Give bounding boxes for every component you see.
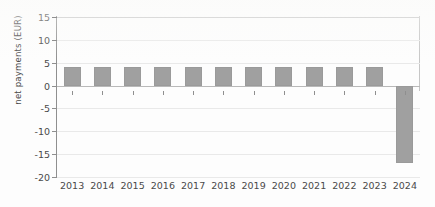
x-tick-label: 2024 [393, 180, 417, 191]
bar [94, 67, 111, 85]
bar-chart: net payments (EUR) 151050-5-10-15-20 201… [0, 0, 435, 207]
x-axis-tick-labels: 2013201420152016201720182019202020212022… [0, 180, 435, 196]
x-tick-mark [254, 91, 255, 95]
x-tick-mark [344, 91, 345, 95]
y-tick-label: -5 [4, 103, 50, 114]
x-tick-label: 2021 [302, 180, 326, 191]
x-tick-mark [223, 91, 224, 95]
y-tick-mark [52, 63, 57, 64]
y-tick-label: 10 [4, 34, 50, 45]
bar [275, 67, 292, 85]
gridline-15 [57, 17, 420, 18]
y-tick-mark [52, 177, 57, 178]
gridline--10 [57, 131, 420, 132]
gridline--5 [57, 108, 420, 109]
y-tick-mark [52, 154, 57, 155]
y-tick-label: -15 [4, 149, 50, 160]
y-axis-tick-labels: 151050-5-10-15-20 [0, 0, 50, 207]
y-tick-label: 15 [4, 12, 50, 23]
x-tick-label: 2019 [242, 180, 266, 191]
x-tick-label: 2020 [272, 180, 296, 191]
x-tick-mark [102, 91, 103, 95]
x-tick-label: 2023 [363, 180, 387, 191]
y-tick-label: 0 [4, 80, 50, 91]
x-tick-mark [163, 91, 164, 95]
plot-area [57, 17, 420, 177]
x-tick-mark [314, 91, 315, 95]
bar [366, 67, 383, 85]
bar [336, 67, 353, 85]
x-tick-label: 2016 [151, 180, 175, 191]
gridline--20 [57, 177, 420, 178]
y-tick-mark [52, 108, 57, 109]
x-tick-mark [72, 91, 73, 95]
gridline-10 [57, 40, 420, 41]
x-tick-mark [284, 91, 285, 95]
x-tick-label: 2018 [211, 180, 235, 191]
bar [215, 67, 232, 85]
gridline-5 [57, 63, 420, 64]
bar [185, 67, 202, 85]
bar [124, 67, 141, 85]
x-tick-mark [375, 91, 376, 95]
bar [154, 67, 171, 85]
bar [64, 67, 81, 85]
bar [306, 67, 323, 85]
gridline--15 [57, 154, 420, 155]
x-tick-label: 2015 [121, 180, 145, 191]
x-tick-mark [133, 91, 134, 95]
x-tick-label: 2014 [90, 180, 114, 191]
y-tick-mark [52, 131, 57, 132]
x-tick-label: 2013 [60, 180, 84, 191]
x-tick-label: 2017 [181, 180, 205, 191]
x-tick-mark [405, 91, 406, 95]
bar [396, 86, 413, 164]
zero-line [57, 86, 420, 87]
x-tick-label: 2022 [332, 180, 356, 191]
bar [245, 67, 262, 85]
x-tick-mark [193, 91, 194, 95]
y-tick-mark [52, 86, 57, 87]
y-tick-mark [52, 17, 57, 18]
y-tick-label: 5 [4, 57, 50, 68]
y-tick-mark [52, 40, 57, 41]
y-tick-label: -10 [4, 126, 50, 137]
